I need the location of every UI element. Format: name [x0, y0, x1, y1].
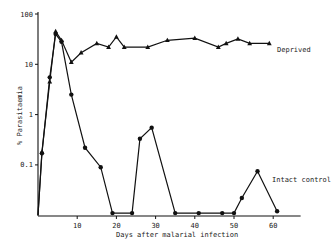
circle-marker: [255, 169, 259, 173]
y-tick-label: 1: [29, 111, 33, 119]
circle-marker: [110, 211, 114, 215]
circle-marker: [220, 211, 224, 215]
circle-marker: [173, 211, 177, 215]
triangle-marker: [114, 34, 119, 38]
x-tick-label: 50: [230, 222, 238, 230]
triangle-marker: [236, 36, 241, 40]
parasitaemia-chart: 1001010.1102030405060 % Parasitaemia Day…: [0, 0, 335, 248]
intact-control-line: [38, 34, 277, 215]
y-axis-label: % Parasitaemia: [16, 86, 24, 145]
circle-marker: [232, 211, 236, 215]
circle-marker: [275, 209, 279, 213]
x-tick-label: 30: [151, 222, 159, 230]
series-layer: [38, 29, 279, 215]
circle-marker: [83, 145, 87, 149]
x-tick-label: 20: [112, 222, 120, 230]
x-tick-label: 60: [269, 222, 277, 230]
circle-marker: [48, 75, 52, 79]
circle-marker: [149, 125, 153, 129]
circle-marker: [53, 32, 57, 36]
circle-marker: [197, 211, 201, 215]
y-tick-label: 100: [20, 11, 33, 19]
circle-marker: [138, 137, 142, 141]
deprived-line: [38, 31, 269, 215]
x-axis-label: Days after malarial infection: [116, 231, 238, 239]
y-tick-label: 0.1: [20, 161, 33, 169]
intact-control-series-label: Intact control: [272, 176, 331, 184]
y-tick-label: 10: [25, 61, 33, 69]
circle-marker: [69, 92, 73, 96]
circle-marker: [130, 211, 134, 215]
deprived-series-label: Deprived: [277, 46, 311, 54]
circle-marker: [59, 40, 63, 44]
circle-marker: [40, 151, 44, 155]
circle-marker: [99, 165, 103, 169]
circle-marker: [240, 196, 244, 200]
x-tick-label: 40: [191, 222, 199, 230]
x-tick-label: 10: [73, 222, 81, 230]
triangle-marker: [94, 41, 99, 45]
